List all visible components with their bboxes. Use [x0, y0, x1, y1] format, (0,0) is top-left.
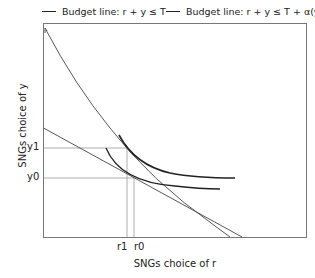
plot-frame	[44, 24, 307, 238]
plot-area	[0, 0, 315, 278]
x-axis-label: SNGs choice of r	[100, 258, 250, 269]
r1-tick-label: r1	[117, 241, 127, 252]
y1-tick-label: y1	[27, 141, 39, 152]
y-axis-label: SNGs choice of y	[17, 66, 28, 186]
y0-tick-label: y0	[27, 171, 39, 182]
indifference-curve-lower	[106, 148, 220, 189]
r0-tick-label: r0	[134, 241, 144, 252]
indifference-curve-upper	[119, 135, 235, 178]
linear-budget-line	[44, 128, 243, 237]
curved-budget-line	[45, 28, 230, 237]
